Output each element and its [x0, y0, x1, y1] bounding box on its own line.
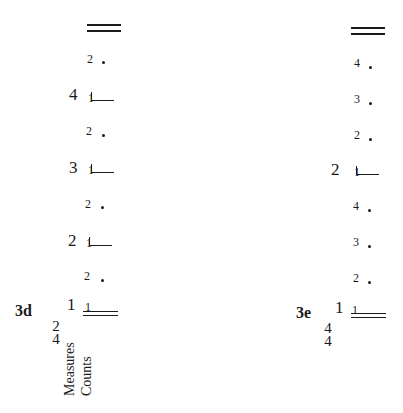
- count-label: 3: [353, 236, 359, 248]
- count-label: 2: [354, 129, 360, 141]
- beat-dot: [369, 102, 372, 105]
- time-signature-bottom: 4: [322, 335, 334, 348]
- measure-number: 4: [69, 86, 78, 103]
- measure-number: 1: [67, 296, 76, 313]
- count-label: 2: [84, 270, 90, 282]
- measure-number: 2: [68, 232, 77, 249]
- measure-number: 3: [69, 159, 78, 176]
- start-double-barline: [83, 311, 118, 316]
- beat-dot: [101, 206, 104, 209]
- measure-bracket: [356, 166, 379, 175]
- count-label: 4: [353, 200, 359, 212]
- figure-label: 3d: [15, 303, 32, 319]
- beat-dot: [369, 66, 372, 69]
- beat-dot: [101, 279, 104, 282]
- row-label-measures: Measures: [63, 342, 77, 396]
- measure-number: 2: [331, 161, 340, 178]
- count-label: 3: [354, 93, 360, 105]
- count-label: 2: [86, 125, 92, 137]
- count-label: 4: [354, 57, 360, 69]
- beat-dot: [368, 281, 371, 284]
- count-label: 2: [87, 53, 93, 65]
- measure-number: 1: [335, 299, 344, 316]
- time-signature-bottom: 4: [50, 333, 62, 346]
- figure-label: 3e: [296, 305, 311, 321]
- measure-bracket: [89, 237, 112, 246]
- measure-bracket: [91, 92, 114, 101]
- time-signature: 2 4: [50, 320, 62, 346]
- count-label: 2: [85, 198, 91, 210]
- count-label: 2: [353, 272, 359, 284]
- measure-bracket: [91, 164, 114, 173]
- end-double-barline: [351, 27, 385, 35]
- start-double-barline: [351, 313, 386, 318]
- beat-dot: [368, 245, 371, 248]
- row-label-counts: Counts: [80, 356, 94, 396]
- time-signature: 4 4: [322, 322, 334, 348]
- beat-dot: [369, 138, 372, 141]
- beat-dot: [102, 61, 105, 64]
- beat-dot: [368, 209, 371, 212]
- beat-dot: [102, 134, 105, 137]
- end-double-barline: [87, 24, 121, 32]
